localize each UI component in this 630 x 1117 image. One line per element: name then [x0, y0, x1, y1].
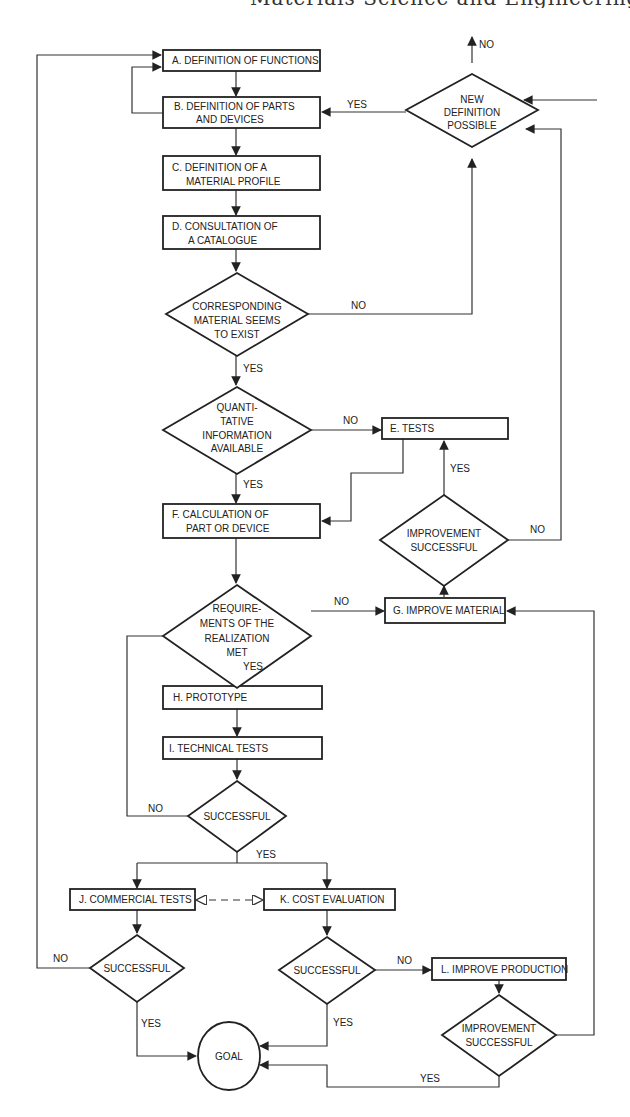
- box-f: F. CALCULATION OF PART OR DEVICE: [163, 504, 320, 538]
- decision-quantitative-line4: AVAILABLE: [211, 443, 264, 454]
- box-g: G. IMPROVE MATERIAL: [385, 598, 505, 623]
- decision-new-definition-line2: DEFINITION: [444, 107, 501, 118]
- decision-improvement-upper-line1: IMPROVEMENT: [407, 528, 481, 539]
- box-g-label: G. IMPROVE MATERIAL: [393, 605, 505, 616]
- decision-improvement-lower-line2: SUCCESSFUL: [465, 1037, 533, 1048]
- box-k-label: K. COST EVALUATION: [280, 894, 384, 905]
- box-d-line2: A CATALOGUE: [188, 235, 257, 246]
- decision-new-definition-line1: NEW: [460, 94, 484, 105]
- decision-requirements-line4: MET: [226, 647, 247, 658]
- edge-label-cost-no: NO: [397, 955, 412, 966]
- goal-label: GOAL: [215, 1051, 243, 1062]
- box-i-label: I. TECHNICAL TESTS: [169, 743, 269, 754]
- decision-corresponding-line3: TO EXIST: [214, 329, 259, 340]
- edge-label-quantitative-no: NO: [343, 415, 358, 426]
- box-b: B. DEFINITION OF PARTS AND DEVICES: [163, 97, 320, 128]
- box-e-label: E. TESTS: [390, 423, 435, 434]
- decision-improvement-lower-line1: IMPROVEMENT: [462, 1023, 536, 1034]
- connectors: [37, 37, 597, 1087]
- goal-terminal: GOAL: [198, 1022, 260, 1090]
- box-d-line1: D. CONSULTATION OF: [172, 221, 278, 232]
- box-h-label: H. PROTOTYPE: [173, 692, 248, 703]
- box-c-line1: C. DEFINITION OF A: [172, 162, 267, 173]
- box-j: J. COMMERCIAL TESTS: [70, 889, 195, 910]
- flowchart: A. DEFINITION OF FUNCTIONS B. DEFINITION…: [0, 0, 630, 1117]
- box-l: L. IMPROVE PRODUCTION: [432, 958, 568, 980]
- decision-requirements-line2: MENTS OF THE: [200, 618, 275, 629]
- edge-label-commercial-no: NO: [53, 953, 68, 964]
- edge-label-corresponding-no: NO: [351, 300, 366, 311]
- decision-new-definition-line3: POSSIBLE: [447, 120, 497, 131]
- decision-successful-technical: SUCCESSFUL: [188, 781, 286, 852]
- decision-requirements-line3: REALIZATION: [205, 633, 270, 644]
- decision-corresponding-line2: MATERIAL SEEMS: [194, 315, 281, 326]
- decision-successful-technical-label: SUCCESSFUL: [203, 811, 271, 822]
- edge-label-requirements-yes: YES: [243, 661, 263, 672]
- edge-label-cost-yes: YES: [333, 1017, 353, 1028]
- decision-quantitative: QUANTI- TATIVE INFORMATION AVAILABLE: [163, 387, 311, 474]
- edge-label-technical-no: NO: [148, 803, 163, 814]
- box-c-line2: MATERIAL PROFILE: [186, 176, 281, 187]
- decision-successful-commercial: SUCCESSFUL: [90, 935, 184, 1002]
- box-b-line1: B. DEFINITION OF PARTS: [174, 101, 295, 112]
- edge-label-technical-yes: YES: [256, 849, 276, 860]
- decision-corresponding: CORRESPONDING MATERIAL SEEMS TO EXIST: [166, 273, 308, 356]
- box-c: C. DEFINITION OF A MATERIAL PROFILE: [163, 156, 320, 190]
- box-k: K. COST EVALUATION: [264, 889, 395, 910]
- box-e: E. TESTS: [382, 418, 508, 439]
- edge-label-requirements-no: NO: [334, 596, 349, 607]
- decision-successful-cost: SUCCESSFUL: [279, 937, 375, 1004]
- edge-label-new-def-yes: YES: [347, 99, 367, 110]
- decision-quantitative-line1: QUANTI-: [216, 402, 257, 413]
- box-j-label: J. COMMERCIAL TESTS: [79, 894, 192, 905]
- edge-label-quantitative-yes: YES: [243, 479, 263, 490]
- decision-quantitative-line3: INFORMATION: [202, 430, 271, 441]
- edge-label-improvement-lower-yes: YES: [420, 1073, 440, 1084]
- box-l-label: L. IMPROVE PRODUCTION: [441, 964, 568, 975]
- decision-requirements-line1: REQUIRE-: [213, 603, 262, 614]
- box-d: D. CONSULTATION OF A CATALOGUE: [163, 216, 320, 249]
- box-i: I. TECHNICAL TESTS: [163, 737, 322, 759]
- box-b-line2: AND DEVICES: [196, 114, 264, 125]
- edge-label-commercial-yes: YES: [141, 1018, 161, 1029]
- box-a-label: A. DEFINITION OF FUNCTIONS: [172, 55, 319, 66]
- decision-quantitative-line2: TATIVE: [220, 416, 254, 427]
- edge-label-improvement-upper-yes: YES: [450, 463, 470, 474]
- decision-successful-cost-label: SUCCESSFUL: [293, 965, 361, 976]
- edge-label-improvement-upper-no: NO: [530, 524, 545, 535]
- decision-improvement-upper: IMPROVEMENT SUCCESSFUL: [380, 495, 508, 586]
- decision-improvement-lower: IMPROVEMENT SUCCESSFUL: [442, 995, 556, 1076]
- box-a: A. DEFINITION OF FUNCTIONS: [163, 50, 320, 71]
- decision-corresponding-line1: CORRESPONDING: [192, 301, 282, 312]
- box-f-line1: F. CALCULATION OF: [172, 509, 269, 520]
- decision-requirements-shape: REQUIRE- MENTS OF THE REALIZATION MET: [163, 585, 311, 688]
- box-h: H. PROTOTYPE: [163, 686, 322, 709]
- decision-improvement-upper-line2: SUCCESSFUL: [410, 542, 478, 553]
- decision-successful-commercial-label: SUCCESSFUL: [103, 963, 171, 974]
- decision-new-definition: NEW DEFINITION POSSIBLE: [406, 74, 538, 147]
- edge-label-corresponding-yes: YES: [243, 363, 263, 374]
- edge-label-new-def-no: NO: [479, 39, 494, 50]
- box-f-line2: PART OR DEVICE: [186, 523, 270, 534]
